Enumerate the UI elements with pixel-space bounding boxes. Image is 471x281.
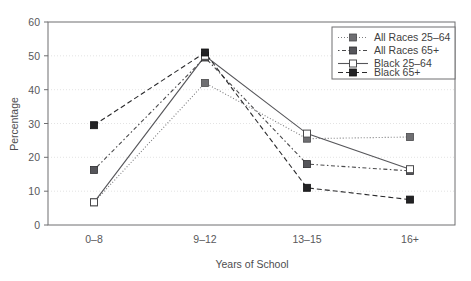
y-tick-label-60: 60 [28, 16, 40, 28]
chart-container: 60 50 40 30 20 10 0 0–8 9–12 13–15 16+ Y… [0, 0, 471, 281]
series-line-all-races-25-64 [94, 83, 410, 202]
legend-swatch-marker-black-25-64 [350, 60, 357, 67]
data-point-black-25-64-16plus [407, 166, 414, 173]
data-point-black-65plus-16plus [407, 196, 414, 203]
y-tick-label-20: 20 [28, 151, 40, 163]
legend-label-all-races-25-64: All Races 25–64 [374, 31, 451, 43]
y-tick-labels: 60 50 40 30 20 10 0 [28, 16, 40, 231]
legend-swatch-marker-black-65plus [350, 69, 357, 76]
legend-label-black-65plus: Black 65+ [374, 66, 420, 78]
data-point-all-races-65plus-0-8 [91, 166, 98, 173]
data-point-black-65plus-9-12 [202, 49, 209, 56]
x-tick-label-13-15: 13–15 [292, 233, 321, 245]
data-point-all-races-25-64-9-12 [202, 79, 209, 86]
line-chart: 60 50 40 30 20 10 0 0–8 9–12 13–15 16+ Y… [0, 0, 471, 281]
y-tickmarks [44, 22, 48, 225]
x-tick-labels: 0–8 9–12 13–15 16+ [85, 233, 419, 245]
x-tick-label-9-12: 9–12 [193, 233, 217, 245]
legend-swatch-marker-all-races-65plus [350, 47, 357, 54]
legend-label-all-races-65plus: All Races 65+ [374, 44, 439, 56]
data-point-black-25-64-13-15 [304, 130, 311, 137]
y-tick-label-30: 30 [28, 118, 40, 130]
legend-swatch-marker-all-races-25-64 [350, 34, 357, 41]
data-point-all-races-65plus-13-15 [304, 161, 311, 168]
x-tick-label-0-8: 0–8 [85, 233, 103, 245]
data-point-all-races-25-64-16plus [407, 134, 414, 141]
y-tick-label-0: 0 [34, 219, 40, 231]
data-point-black-65plus-0-8 [91, 122, 98, 129]
data-point-black-65plus-13-15 [304, 184, 311, 191]
x-tick-label-16plus: 16+ [401, 233, 419, 245]
y-axis-title: Percentage [8, 97, 20, 151]
data-point-black-25-64-0-8 [91, 199, 98, 206]
chart-legend[interactable]: All Races 25–64 All Races 65+ Black 25–6… [332, 27, 455, 79]
x-axis-title: Years of School [215, 258, 288, 270]
y-tick-label-50: 50 [28, 50, 40, 62]
y-tick-label-40: 40 [28, 84, 40, 96]
y-tick-label-10: 10 [28, 185, 40, 197]
